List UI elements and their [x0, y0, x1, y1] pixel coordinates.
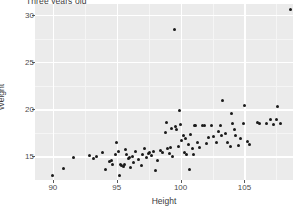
data-point: [123, 163, 126, 166]
data-point: [205, 142, 208, 145]
gridline-major-vertical: [244, 4, 245, 180]
data-point: [276, 105, 279, 108]
data-point: [169, 146, 172, 149]
data-point: [215, 141, 218, 144]
data-point: [161, 151, 164, 154]
gridline-major-horizontal: [35, 15, 293, 16]
data-point: [203, 124, 206, 127]
gridline-minor-horizontal: [35, 39, 293, 40]
x-axis-title: Height: [35, 196, 293, 206]
data-point: [164, 131, 167, 134]
data-point: [219, 124, 222, 127]
gridline-minor-horizontal: [35, 86, 293, 87]
data-point: [141, 153, 144, 156]
data-point: [191, 147, 194, 150]
data-point: [229, 145, 232, 148]
data-point: [265, 122, 268, 125]
data-point: [198, 146, 201, 149]
data-point: [279, 122, 282, 125]
data-point: [131, 155, 134, 158]
data-point: [145, 156, 148, 159]
data-point: [272, 123, 275, 126]
gridline-major-vertical: [181, 4, 182, 180]
x-axis-tick-label: 100: [174, 183, 187, 192]
plot-panel: [35, 4, 293, 180]
data-point: [117, 150, 120, 153]
data-point: [192, 153, 195, 156]
data-point: [207, 136, 210, 139]
data-point: [72, 156, 75, 159]
data-point: [189, 133, 192, 136]
data-point: [175, 128, 178, 131]
data-point: [124, 148, 127, 151]
data-point: [289, 8, 292, 11]
gridline-minor-vertical: [276, 4, 277, 180]
gridline-major-horizontal: [35, 62, 293, 63]
data-point: [134, 150, 137, 153]
data-point: [111, 163, 114, 166]
data-point: [187, 143, 190, 146]
data-point: [140, 164, 143, 167]
x-axis-tick-label: 105: [238, 183, 251, 192]
data-point: [110, 159, 113, 162]
data-point: [129, 166, 132, 169]
data-point: [95, 155, 98, 158]
data-point: [168, 152, 171, 155]
data-point: [231, 122, 234, 125]
data-point: [210, 124, 213, 127]
data-point: [132, 161, 135, 164]
data-point: [242, 122, 245, 125]
y-axis-tick-label: 20: [25, 105, 34, 114]
data-point: [165, 121, 168, 124]
y-axis-title: Weight: [0, 84, 6, 110]
data-point: [118, 174, 121, 177]
data-point: [156, 159, 159, 162]
data-point: [152, 150, 155, 153]
data-point: [150, 154, 153, 157]
data-point: [237, 144, 240, 147]
x-axis-tick-label: 95: [112, 183, 121, 192]
data-point: [220, 134, 223, 137]
data-point: [137, 158, 140, 161]
data-point: [275, 118, 278, 121]
data-point: [184, 137, 187, 140]
gridline-minor-vertical: [85, 4, 86, 180]
y-axis-tick-label: 25: [25, 58, 34, 67]
data-point: [224, 132, 227, 135]
data-point: [62, 167, 65, 170]
data-point: [226, 141, 229, 144]
data-point: [188, 168, 191, 171]
data-point: [177, 145, 180, 148]
scatter-plot-figure: Three years old 909510010515202530 Heigh…: [0, 0, 296, 211]
data-point: [258, 122, 261, 125]
data-point: [233, 128, 236, 131]
data-point: [239, 137, 242, 140]
data-point: [180, 139, 183, 142]
data-point: [248, 143, 251, 146]
data-point: [104, 168, 107, 171]
data-point: [178, 109, 181, 112]
data-point: [143, 147, 146, 150]
data-point: [234, 134, 237, 137]
data-point: [173, 28, 176, 31]
data-point: [212, 135, 215, 138]
x-axis-tick-label: 90: [48, 183, 57, 192]
gridline-minor-vertical: [213, 4, 214, 180]
y-axis-tick-label: 15: [25, 152, 34, 161]
y-axis-tick-label: 30: [25, 11, 34, 20]
data-point: [101, 151, 104, 154]
gridline-major-horizontal: [35, 109, 293, 110]
data-point: [269, 118, 272, 121]
data-point: [154, 169, 157, 172]
data-point: [194, 124, 197, 127]
data-point: [196, 141, 199, 144]
data-point: [170, 127, 173, 130]
data-point: [221, 99, 224, 102]
data-point: [230, 112, 233, 115]
gridline-major-vertical: [53, 4, 54, 180]
